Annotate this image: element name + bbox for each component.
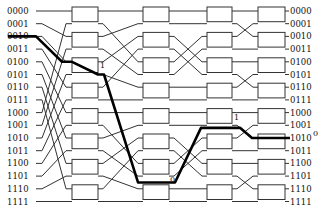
switch-box: [72, 185, 98, 200]
route-bit-mark: 0: [170, 175, 175, 184]
output-label: 1011: [290, 146, 312, 156]
output-label: 0000: [290, 6, 312, 16]
input-label: 1010: [7, 133, 29, 143]
network-diagram: 0000000100100011010001010110011110001001…: [0, 0, 319, 211]
input-label: 0011: [7, 44, 29, 54]
input-label: 0111: [7, 95, 29, 105]
switch-box: [207, 7, 232, 22]
input-label: 1100: [7, 158, 29, 168]
right-output-labels: 0000000100100011010001010110011110001001…: [290, 6, 312, 207]
input-label: 1001: [7, 120, 29, 130]
input-label: 1111: [7, 197, 29, 207]
switch-box: [258, 32, 285, 47]
output-label: 1101: [290, 171, 312, 181]
switch-box: [72, 83, 98, 98]
output-label: 0001: [290, 19, 312, 29]
switch-box: [258, 7, 285, 22]
input-label: 0110: [7, 82, 29, 92]
output-label: 0101: [290, 70, 312, 80]
switch-box: [143, 58, 169, 73]
switch-box: [143, 159, 169, 174]
switch-box: [258, 159, 285, 174]
switch-box: [207, 83, 232, 98]
switch-box: [72, 159, 98, 174]
output-label: 0011: [290, 44, 312, 54]
input-label: 1011: [7, 146, 29, 156]
switch-box: [143, 109, 169, 124]
switch-box: [207, 32, 232, 47]
output-label: 0111: [290, 95, 312, 105]
switch-box: [143, 83, 169, 98]
switch-box: [143, 32, 169, 47]
output-label: 1111: [290, 197, 312, 207]
switch-box: [72, 134, 98, 149]
output-label: 0100: [290, 57, 312, 67]
switch-box: [72, 32, 98, 47]
switch-box: [207, 159, 232, 174]
output-label: 1010: [290, 133, 312, 143]
output-label: 1100: [290, 158, 312, 168]
input-label: 0100: [7, 57, 29, 67]
switch-box: [143, 134, 169, 149]
output-label: 0010: [290, 31, 312, 41]
switch-box: [143, 185, 169, 200]
input-label: 1110: [7, 184, 29, 194]
switch-box: [258, 83, 285, 98]
switch-box: [207, 109, 232, 124]
switch-box: [143, 7, 169, 22]
input-label: 0000: [7, 6, 29, 16]
switch-box: [72, 109, 98, 124]
input-label: 0101: [7, 70, 29, 80]
switch-box: [258, 134, 285, 149]
switch-box: [258, 185, 285, 200]
switch-box: [207, 134, 232, 149]
output-label: 1110: [290, 184, 312, 194]
input-label: 0001: [7, 19, 29, 29]
output-label: 1001: [290, 120, 312, 130]
route-bit-mark: 0: [313, 129, 318, 138]
input-label: 1000: [7, 108, 29, 118]
route-bit-mark: 1: [100, 61, 105, 70]
switch-box: [72, 7, 98, 22]
switch-box: [258, 109, 285, 124]
route-bit-mark: 1: [234, 113, 239, 122]
switch-box: [207, 185, 232, 200]
switch-box: [207, 58, 232, 73]
switch-box: [258, 58, 285, 73]
output-label: 0110: [290, 82, 312, 92]
output-label: 1000: [290, 108, 312, 118]
input-label: 1101: [7, 171, 29, 181]
